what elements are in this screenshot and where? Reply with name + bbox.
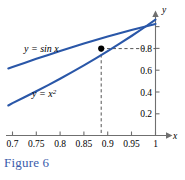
curve-x-squared [8,20,155,106]
x-tick-label-3: 0.85 [76,139,93,149]
y-tick-label-2: 0.6 [140,66,152,76]
plot-area: 0.7 0.75 0.8 0.85 0.9 0.95 1 0.2 0.4 0.6… [0,0,185,180]
curve-label-x-squared: y = x2 [31,88,57,100]
y-axis-name: y [161,5,167,15]
figure-container: 0.7 0.75 0.8 0.85 0.9 0.95 1 0.2 0.4 0.6… [0,0,185,180]
y-axis-ticks [156,27,160,114]
x-axis-ticks [13,132,156,136]
x-tick-label-0: 0.7 [7,139,19,149]
x-tick-labels: 0.7 0.75 0.8 0.85 0.9 0.95 1 [7,139,159,149]
y-tick-label-0: 0.2 [140,109,152,119]
x-axis [6,132,173,138]
y-axis-arrow-icon [152,11,158,18]
x-tick-label-6: 1 [153,139,158,149]
y-axis [152,11,158,136]
y-tick-label-1: 0.4 [140,88,152,98]
figure-caption: Figure 6 [4,155,49,171]
x-tick-label-5: 0.95 [123,139,140,149]
x-tick-label-1: 0.75 [28,139,45,149]
x-axis-name: x [172,131,178,141]
curve-label-sin-x: y = sin x [23,43,59,54]
y-tick-labels: 0.2 0.4 0.6 0.8 [140,44,152,119]
x-tick-label-4: 0.9 [102,139,114,149]
x-tick-label-2: 0.8 [54,139,66,149]
intersection-point-marker [98,46,104,52]
x-axis-arrow-icon [166,132,173,138]
